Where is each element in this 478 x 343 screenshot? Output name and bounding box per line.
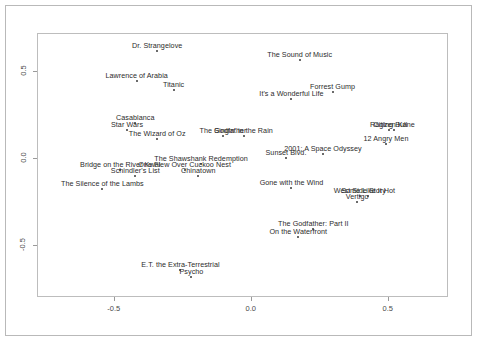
point-label: Psycho — [180, 268, 204, 276]
data-point — [290, 98, 292, 100]
plot-frame: Dr. StrangeloveThe Sound of MusicLawrenc… — [37, 33, 448, 297]
chart-page: Dr. StrangeloveThe Sound of MusicLawrenc… — [0, 0, 478, 343]
point-label: Sunset Blvd. — [265, 149, 306, 157]
data-point — [156, 50, 158, 52]
y-axis-tick-label-wrap: -0.5 — [16, 240, 29, 249]
data-point — [299, 59, 301, 61]
point-label: Gone with the Wind — [260, 179, 324, 187]
data-point — [156, 138, 158, 140]
point-label: Vertigo — [346, 193, 369, 201]
data-point — [285, 157, 287, 159]
point-label: The Wizard of Oz — [129, 130, 186, 138]
x-axis-tick-label: 0.5 — [383, 304, 393, 313]
point-label: The Silence of the Lambs — [61, 180, 144, 188]
data-point — [393, 129, 395, 131]
point-label: Lawrence of Arabia — [105, 72, 167, 80]
point-label: Dr. Strangelove — [132, 42, 182, 50]
y-axis-tick — [33, 158, 37, 159]
y-axis-tick — [33, 71, 37, 72]
data-point — [322, 153, 324, 155]
data-point — [297, 236, 299, 238]
point-label: Singin' in the Rain — [214, 127, 273, 135]
data-point — [222, 135, 224, 137]
point-label: Chinatown — [181, 167, 215, 175]
data-point — [173, 89, 175, 91]
point-label: Citizen Kane — [374, 121, 415, 129]
y-axis-tick-label: -0.5 — [18, 238, 27, 251]
data-point — [243, 135, 245, 137]
data-point — [356, 201, 358, 203]
x-axis-tick-label: -0.5 — [107, 304, 120, 313]
data-point — [126, 129, 128, 131]
x-axis-tick-label: 0.0 — [246, 304, 256, 313]
plot-area: Dr. StrangeloveThe Sound of MusicLawrenc… — [38, 34, 447, 296]
data-point — [134, 175, 136, 177]
x-axis-tick — [114, 297, 115, 301]
data-point — [388, 129, 390, 131]
x-axis-tick — [388, 297, 389, 301]
point-label: On the Waterfront — [269, 228, 327, 236]
point-label: 12 Angry Men — [363, 135, 408, 143]
y-axis-tick — [33, 245, 37, 246]
point-label: Schindler's List — [111, 167, 160, 175]
data-point — [101, 188, 103, 190]
data-point — [332, 91, 334, 93]
data-point — [190, 276, 192, 278]
point-label: Star Wars — [111, 121, 143, 129]
point-label: Titanic — [163, 81, 184, 89]
data-point — [385, 143, 387, 145]
data-point — [136, 80, 138, 82]
y-axis-tick-label-wrap: 0.0 — [19, 153, 29, 162]
data-point — [290, 187, 292, 189]
x-axis-tick — [251, 297, 252, 301]
data-point — [197, 175, 199, 177]
point-label: The Sound of Music — [267, 51, 332, 59]
y-axis-tick-label: 0.0 — [19, 152, 28, 162]
y-axis-tick-label: 0.5 — [19, 65, 28, 75]
point-label: It's a Wonderful Life — [259, 90, 323, 98]
y-axis-tick-label-wrap: 0.5 — [19, 66, 29, 75]
